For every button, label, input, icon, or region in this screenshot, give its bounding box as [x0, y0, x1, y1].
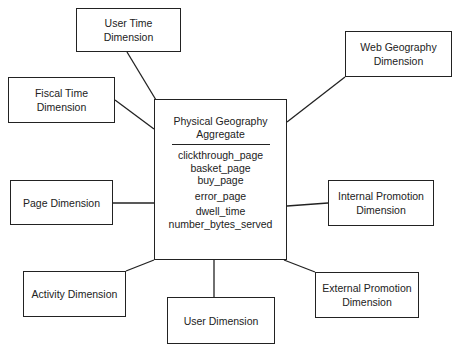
attribute-clickthrough-page: clickthrough_page [155, 149, 286, 162]
user-dimension-box: User Dimension [167, 297, 275, 344]
attribute-error-page: error_page [155, 190, 286, 203]
link-external-promotion [284, 260, 315, 272]
link-internal-promotion [287, 203, 328, 206]
physical-geography-aggregate-box: Physical Geography Aggregate clickthroug… [154, 99, 287, 260]
external-promotion-dimension-label-line2: Dimension [342, 295, 392, 309]
link-user-time [127, 52, 156, 100]
attribute-dwell-time: dwell_time [155, 205, 286, 218]
external-promotion-dimension-box: External Promotion Dimension [315, 272, 419, 318]
aggregate-title: Physical Geography Aggregate [155, 115, 286, 141]
internal-promotion-dimension-label-line1: Internal Promotion [338, 189, 424, 203]
fiscal-time-dimension-label: Fiscal Time Dimension [13, 86, 110, 114]
external-promotion-dimension-label-line1: External Promotion [322, 281, 411, 295]
attribute-buy-page: buy_page [155, 174, 286, 187]
aggregate-title-line2: Aggregate [155, 128, 286, 141]
user-time-dimension-box: User Time Dimension [76, 8, 181, 52]
attribute-number-bytes-served: number_bytes_served [155, 218, 286, 231]
user-time-dimension-label: User Time Dimension [81, 16, 176, 44]
web-geography-dimension-label-line1: Web Geography [360, 40, 436, 54]
link-fiscal-time [115, 100, 154, 129]
page-dimension-box: Page Dimension [10, 180, 113, 225]
aggregate-title-line1: Physical Geography [155, 115, 286, 128]
activity-dimension-box: Activity Dimension [23, 271, 126, 317]
web-geography-dimension-label-line2: Dimension [374, 54, 424, 68]
link-activity [126, 260, 154, 271]
link-web-geography [287, 77, 345, 122]
title-divider [172, 144, 270, 145]
user-dimension-label: User Dimension [184, 314, 259, 328]
activity-dimension-label: Activity Dimension [32, 287, 118, 301]
page-dimension-label: Page Dimension [23, 196, 100, 210]
internal-promotion-dimension-box: Internal Promotion Dimension [328, 180, 434, 226]
web-geography-dimension-box: Web Geography Dimension [345, 31, 452, 77]
attribute-basket-page: basket_page [155, 162, 286, 175]
fiscal-time-dimension-box: Fiscal Time Dimension [8, 77, 115, 123]
internal-promotion-dimension-label-line2: Dimension [356, 203, 406, 217]
